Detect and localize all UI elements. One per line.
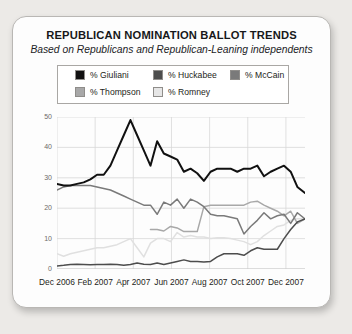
legend-item-mccain[interactable]: % McCain: [230, 70, 284, 80]
y-tick-label: 30: [36, 174, 52, 181]
y-tick-label: 50: [36, 113, 52, 120]
series-line-giuliani: [57, 120, 305, 193]
chart-card: REPUBLICAN NOMINATION BALLOT TRENDS Base…: [12, 16, 331, 308]
x-tick-label: Dec 2007: [260, 277, 312, 287]
legend-item-thompson[interactable]: % Thompson: [75, 87, 140, 97]
legend-swatch-mccain: [230, 70, 240, 80]
chart-legend: % Giuliani % Huckabee % McCain % Thompso…: [57, 65, 289, 104]
legend-label-mccain: % McCain: [245, 70, 284, 80]
y-tick-label: 20: [36, 204, 52, 211]
legend-label-romney: % Romney: [168, 87, 210, 97]
legend-item-giuliani[interactable]: % Giuliani: [75, 70, 129, 80]
series-line-romney: [57, 219, 305, 257]
y-tick-label: 0: [36, 265, 52, 272]
legend-swatch-romney: [153, 87, 163, 97]
y-tick-label: 10: [36, 235, 52, 242]
y-tick-label: 40: [36, 143, 52, 150]
chart-plot-area: [57, 117, 305, 269]
legend-row-2: % Thompson % Romney: [58, 87, 288, 104]
legend-label-huckabee: % Huckabee: [168, 70, 217, 80]
legend-item-huckabee[interactable]: % Huckabee: [153, 70, 217, 80]
series-line-mccain: [57, 185, 305, 234]
legend-swatch-giuliani: [75, 70, 85, 80]
chart-subtitle: Based on Republicans and Republican-Lean…: [13, 44, 330, 55]
page-title: REPUBLICAN NOMINATION BALLOT TRENDS: [13, 29, 330, 41]
legend-item-romney[interactable]: % Romney: [153, 87, 210, 97]
legend-row-1: % Giuliani % Huckabee % McCain: [58, 70, 288, 87]
line-chart-svg: [57, 117, 305, 269]
legend-swatch-thompson: [75, 87, 85, 97]
series-line-huckabee: [57, 219, 305, 266]
legend-swatch-huckabee: [153, 70, 163, 80]
legend-label-thompson: % Thompson: [90, 87, 140, 97]
legend-label-giuliani: % Giuliani: [90, 70, 129, 80]
